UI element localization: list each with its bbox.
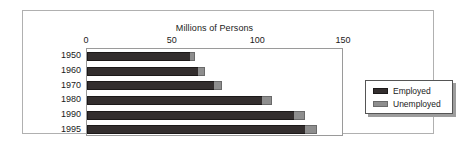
bar-row [87,81,222,90]
bar-segment-unemployed [305,125,317,134]
x-axis: 050100150 [86,35,343,47]
y-tick-label: 1990 [61,109,81,119]
plot-area [86,48,343,136]
legend-label-unemployed: Unemployed [393,100,441,109]
legend-box: Employed Unemployed [365,80,453,114]
y-tick-label: 1980 [61,94,81,104]
chart-title: Millions of Persons [86,23,343,33]
bar-segment-employed [87,125,305,134]
chart-frame: Millions of Persons 050100150 1950196019… [22,10,434,134]
bars-container [87,49,342,135]
y-tick-label: 1970 [61,80,81,90]
y-axis: 195019601970198019901995 [45,48,84,136]
legend-swatch-employed-icon [373,88,388,94]
bar-row [87,125,317,134]
bar-segment-employed [87,67,198,76]
bar-row [87,111,305,120]
bar-segment-unemployed [198,67,205,76]
y-tick-label: 1960 [61,65,81,75]
legend-item-employed: Employed [373,85,452,97]
bar-row [87,67,205,76]
bar-segment-employed [87,96,262,105]
x-tick-label: 50 [167,35,177,45]
legend: Employed Unemployed [365,80,453,114]
y-tick-label: 1950 [61,50,81,60]
bar-segment-unemployed [190,52,195,61]
legend-swatch-unemployed-icon [373,101,388,107]
bar-segment-employed [87,81,214,90]
bar-segment-unemployed [262,96,272,105]
legend-label-employed: Employed [393,87,431,96]
legend-item-unemployed: Unemployed [373,98,452,110]
bar-segment-employed [87,111,294,120]
bar-segment-unemployed [214,81,223,90]
bar-row [87,96,272,105]
x-tick-label: 100 [250,35,265,45]
y-tick-label: 1995 [61,124,81,134]
bar-segment-employed [87,52,190,61]
bar-segment-unemployed [294,111,304,120]
x-tick-label: 0 [83,35,88,45]
x-tick-label: 150 [335,35,350,45]
bar-row [87,52,195,61]
